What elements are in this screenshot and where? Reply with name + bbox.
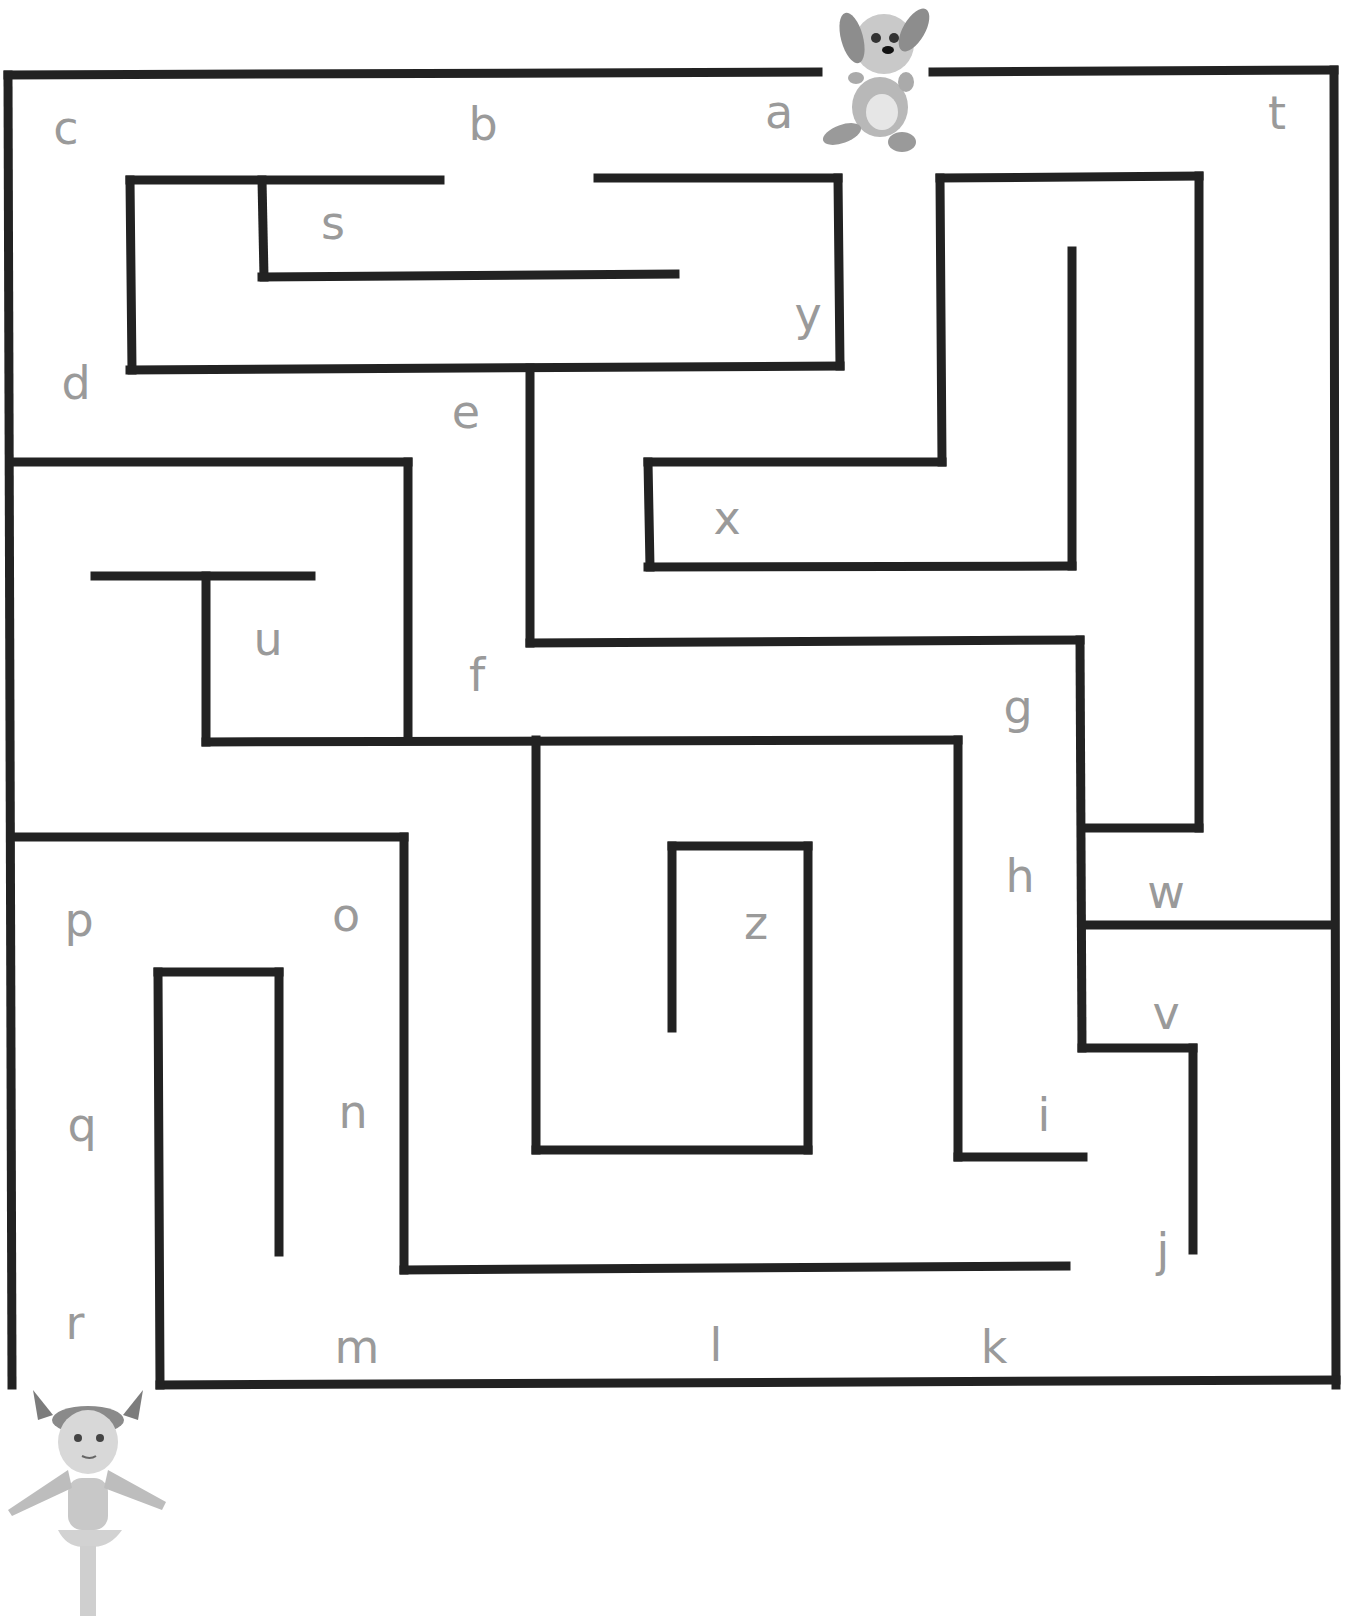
maze-letter-r: r (66, 1300, 85, 1346)
maze-board (0, 0, 1355, 1616)
girl-icon (8, 1390, 166, 1616)
maze-letter-c: c (53, 105, 78, 151)
maze-wall (648, 462, 650, 567)
maze-wall (404, 1266, 1066, 1270)
maze-letter-x: x (713, 495, 740, 541)
maze-letter-i: i (1038, 1092, 1051, 1138)
maze-letter-k: k (981, 1324, 1008, 1370)
maze-letter-h: h (1005, 853, 1034, 899)
maze-wall (940, 178, 942, 462)
maze-wall (1080, 640, 1082, 1048)
maze-wall (130, 180, 132, 370)
maze-letter-w: w (1147, 869, 1185, 915)
maze-letter-a: a (765, 89, 793, 135)
maze-walls (8, 70, 1336, 1385)
maze-wall (1334, 70, 1336, 1385)
maze-wall (838, 178, 840, 366)
maze-letter-e: e (452, 389, 480, 435)
maze-letter-g: g (1003, 684, 1032, 730)
maze-letter-v: v (1152, 990, 1179, 1036)
maze-letter-z: z (744, 900, 768, 946)
maze-letter-u: u (253, 616, 282, 662)
maze-letter-d: d (61, 360, 90, 406)
maze-letter-o: o (332, 892, 360, 938)
maze-wall (160, 1380, 1336, 1385)
maze-wall (262, 180, 264, 277)
maze-wall (530, 640, 1080, 643)
maze-letter-q: q (67, 1102, 96, 1148)
maze-letter-s: s (321, 200, 345, 246)
maze-wall (648, 566, 1072, 567)
maze-wall (130, 366, 840, 370)
maze-letter-f: f (469, 652, 485, 698)
maze-letter-p: p (64, 897, 93, 943)
puppy-icon (820, 4, 935, 152)
maze-letter-l: l (710, 1322, 723, 1368)
maze-letter-b: b (468, 101, 497, 147)
maze-wall (206, 740, 958, 742)
maze-letter-n: n (338, 1089, 367, 1135)
maze-wall (158, 972, 160, 1385)
maze-letter-m: m (335, 1324, 380, 1370)
maze-wall (933, 70, 1334, 72)
maze-letter-y: y (794, 291, 821, 337)
maze-wall (940, 176, 1199, 178)
maze-wall (262, 274, 675, 277)
maze-wall (8, 72, 818, 75)
maze-wall (8, 75, 12, 1385)
maze-letter-t: t (1268, 90, 1286, 136)
maze-letter-j: j (1157, 1227, 1170, 1273)
